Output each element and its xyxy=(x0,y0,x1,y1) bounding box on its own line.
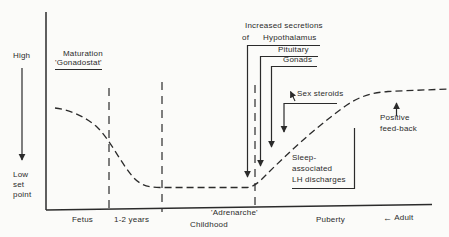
x-label-puberty: Puberty xyxy=(316,215,345,225)
gonadostat-maturation-figure: High Low set point Maturation 'Gonadosta… xyxy=(0,0,449,237)
y-axis-low-set-point-label: Low set point xyxy=(13,170,31,200)
pituitary-bracket-arrow xyxy=(261,57,319,167)
positive-feedback-label: Positive feed-back xyxy=(380,112,417,134)
x-label-1-2-years: 1-2 years xyxy=(114,215,149,225)
sleep-lh-discharges-label: Sleep- associated LH discharges xyxy=(292,152,346,185)
increased-secretions-label: Increased secretions xyxy=(245,21,323,31)
x-label-fetus: Fetus xyxy=(72,215,93,225)
hypothalamus-label: Hypothalamus xyxy=(263,33,317,43)
gonadostat-label: 'Gonadostat' xyxy=(55,58,102,70)
x-label-adrenarche: 'Adrenarche' xyxy=(211,208,258,218)
gonads-label: Gonads xyxy=(283,55,312,65)
x-label-adult-group: ← Adult xyxy=(383,213,413,223)
adult-left-arrow-icon: ← xyxy=(383,214,392,222)
set-point-curve xyxy=(55,89,447,188)
sex-steroids-label: Sex steroids xyxy=(297,89,343,99)
x-label-childhood: Childhood xyxy=(190,220,228,230)
x-label-adult: Adult xyxy=(394,213,413,223)
pituitary-label: Pituitary xyxy=(278,45,309,55)
sex-steroids-rise-arrow-icon xyxy=(291,92,296,102)
gonads-bracket-arrow xyxy=(272,67,318,148)
increased-secretions-of-label: of xyxy=(242,33,249,43)
y-axis-high-label: High xyxy=(13,51,30,61)
